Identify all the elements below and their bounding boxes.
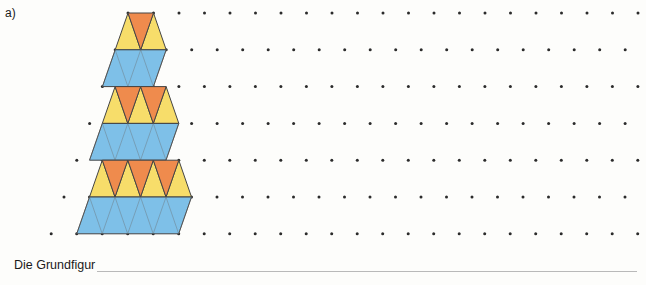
figure-row-top [102, 13, 166, 87]
caption-rule [97, 271, 637, 272]
worksheet-page: a) [0, 0, 646, 285]
figure-caption: Die Grundfigur [14, 258, 95, 272]
figure-row-bottom [77, 160, 192, 234]
isometric-figure [0, 0, 646, 285]
figure-row-middle [90, 87, 179, 161]
